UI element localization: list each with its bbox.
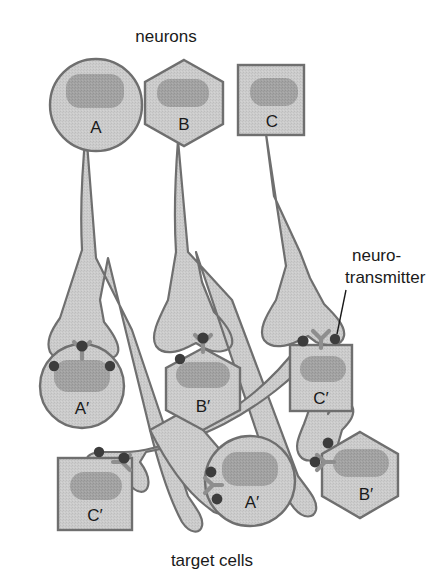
target-cell-C-prime-2: C′ <box>58 458 132 530</box>
neurotransmitter-dot <box>330 334 340 344</box>
neurotransmitter-dot <box>297 335 308 346</box>
neuron-A-nucleus <box>66 74 124 108</box>
neuron-B-nucleus <box>157 79 209 107</box>
target-cell-A-prime-2: A′ <box>205 436 295 526</box>
neurotransmitter-dot <box>49 361 59 371</box>
neurotransmitter-dot <box>310 457 321 468</box>
neurotransmitter-dot <box>118 452 129 463</box>
target-B-prime-1-label: B′ <box>196 397 211 416</box>
target-A-prime-1-nucleus <box>54 360 110 392</box>
neurotransmitter-dot <box>206 467 217 478</box>
neurotransmitter-dot <box>323 438 334 449</box>
target-A-prime-2-label: A′ <box>245 493 260 512</box>
neurons-title: neurons <box>135 27 196 46</box>
neuron-C-nucleus <box>250 78 298 106</box>
neurotransmitter-dot <box>175 354 185 364</box>
target-cell-C-prime-1: C′ <box>290 345 352 411</box>
neuron-C-label: C <box>266 112 278 131</box>
target-C-prime-1-nucleus <box>300 356 346 382</box>
target-B-prime-1-nucleus <box>176 362 230 388</box>
neurotransmitter-dot <box>105 361 115 371</box>
neurotransmitter-dot <box>212 494 223 505</box>
target-A-prime-1-label: A′ <box>75 399 90 418</box>
neuron-A: A <box>50 59 142 151</box>
neuron-target-cell-diagram: A B C A′ B′ <box>0 0 432 587</box>
target-cells-caption: target cells <box>171 551 253 570</box>
neuron-C: C <box>238 65 304 135</box>
neuron-B-label: B <box>178 115 189 134</box>
target-B-prime-2-label: B′ <box>359 485 374 504</box>
target-C-prime-2-label: C′ <box>87 506 102 525</box>
diagram-canvas: A B C A′ B′ <box>0 0 432 587</box>
neurotransmitter-dot <box>76 340 87 351</box>
neurotransmitter-dot <box>94 447 104 457</box>
callout-label-line1: neuro- <box>352 246 401 265</box>
neurotransmitter-dot <box>197 332 208 343</box>
target-A-prime-2-nucleus <box>222 452 278 486</box>
target-C-prime-2-nucleus <box>70 472 122 500</box>
target-C-prime-1-label: C′ <box>313 389 328 408</box>
callout-label-line2: transmitter <box>345 268 426 287</box>
neuron-A-label: A <box>90 118 102 137</box>
target-B-prime-2-nucleus <box>333 449 389 477</box>
